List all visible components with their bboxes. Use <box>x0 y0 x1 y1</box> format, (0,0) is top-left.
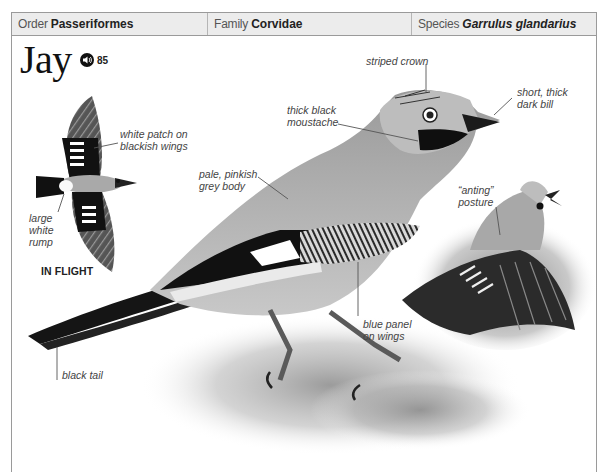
label-line: large <box>29 212 54 224</box>
label-white-rump: large white rump <box>29 212 54 248</box>
audio-track-number: 85 <box>97 55 108 66</box>
label-line: on wings <box>363 330 411 342</box>
anting-jay-illustration <box>402 181 597 350</box>
in-flight-caption: IN FLIGHT <box>41 265 93 277</box>
label-line: pale, pinkish <box>199 168 257 180</box>
species-common-name: Jay <box>20 38 72 82</box>
label-line: short, thick <box>517 86 568 98</box>
label-line: white <box>29 224 54 236</box>
label-line: grey body <box>199 180 257 192</box>
label-black-tail: black tail <box>62 369 103 381</box>
label-line: “anting” <box>458 184 494 196</box>
label-line: moustache <box>287 116 338 128</box>
label-striped-crown: striped crown <box>366 55 428 67</box>
audio-track[interactable]: 85 <box>80 53 108 67</box>
label-line: thick black <box>287 104 338 116</box>
label-anting-posture: “anting” posture <box>458 184 494 208</box>
label-blue-panel: blue panel on wings <box>363 318 411 342</box>
label-bill: short, thick dark bill <box>517 86 568 110</box>
label-line: posture <box>458 196 494 208</box>
speaker-icon[interactable] <box>80 53 94 67</box>
label-line: rump <box>29 236 54 248</box>
label-line: white patch on <box>120 128 188 140</box>
label-line: blue panel <box>363 318 411 330</box>
label-line: dark bill <box>517 98 568 110</box>
label-white-patch: white patch on blackish wings <box>120 128 188 152</box>
label-body: pale, pinkish grey body <box>199 168 257 192</box>
label-moustache: thick black moustache <box>287 104 338 128</box>
label-line: blackish wings <box>120 140 188 152</box>
